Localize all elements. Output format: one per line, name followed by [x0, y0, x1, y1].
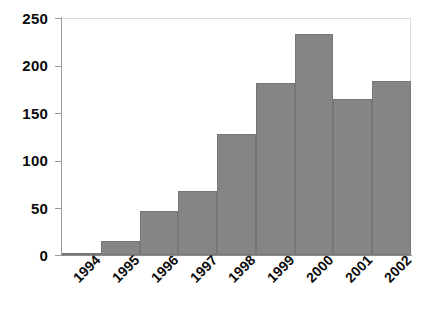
- x-axis-label-1996: 1996: [148, 252, 182, 286]
- bar-2001: [333, 99, 372, 255]
- x-axis-slot-4: 1998: [217, 257, 256, 315]
- x-axis-slot-8: 2002: [372, 257, 411, 315]
- bar-1997: [178, 191, 217, 255]
- x-axis-label-1997: 1997: [186, 252, 220, 286]
- bar-chart: 250 200 150 100 50 0 1994 1995 1996 1997…: [0, 0, 429, 317]
- y-axis-label-0: 0: [39, 248, 48, 263]
- x-axis-label-2001: 2001: [342, 252, 376, 286]
- bar-1996: [140, 211, 179, 255]
- x-axis-slot-7: 2001: [333, 257, 372, 315]
- y-axis-label-150: 150: [22, 106, 48, 121]
- y-axis-label-100: 100: [22, 153, 48, 168]
- y-axis-label-50: 50: [31, 201, 48, 216]
- x-axis: 1994 1995 1996 1997 1998 1999 2000 2001 …: [62, 257, 411, 317]
- x-axis-slot-2: 1996: [140, 257, 179, 315]
- x-axis-slot-1: 1995: [101, 257, 140, 315]
- bar-1999: [256, 83, 295, 255]
- x-axis-label-2002: 2002: [380, 252, 414, 286]
- bar-1998: [217, 134, 256, 255]
- x-axis-slot-0: 1994: [62, 257, 101, 315]
- x-axis-slot-3: 1997: [178, 257, 217, 315]
- bar-1995: [101, 241, 140, 255]
- x-axis-label-1999: 1999: [264, 252, 298, 286]
- x-axis-label-1994: 1994: [70, 252, 104, 286]
- x-axis-label-1995: 1995: [109, 252, 143, 286]
- x-axis-slot-6: 2000: [295, 257, 334, 315]
- y-axis-label-200: 200: [22, 58, 48, 73]
- x-axis-label-2000: 2000: [303, 252, 337, 286]
- y-axis-label-250: 250: [22, 11, 48, 26]
- x-axis-label-1998: 1998: [225, 252, 259, 286]
- x-axis-slot-5: 1999: [256, 257, 295, 315]
- bar-series: [62, 18, 411, 255]
- bar-2002: [372, 81, 411, 255]
- bar-2000: [295, 34, 334, 255]
